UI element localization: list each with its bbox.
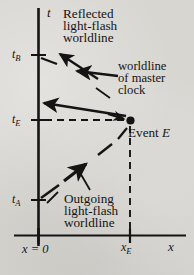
outgoing-flash-caption: Outgoing light-flash worldline — [64, 193, 118, 230]
tA-sub: A — [15, 198, 20, 208]
tA-tick-label: tA — [12, 193, 21, 208]
tB-sub: B — [15, 53, 20, 63]
event-e-label-symbol: E — [162, 125, 170, 140]
outgoing-flash-segment-4 — [118, 128, 127, 139]
tE-sub: E — [15, 118, 20, 128]
master-clock-callout-tick — [96, 88, 110, 98]
xE-sub: E — [126, 246, 131, 256]
outgoing-flash-segment-3 — [98, 144, 112, 155]
reflected-flash-caption-line-3: worldline — [63, 32, 117, 44]
time-axis-label: t — [47, 6, 51, 19]
origin-label: x = 0 — [22, 243, 48, 256]
reflected-flash-caption: Reflected light-flash worldline — [63, 8, 117, 45]
spacetime-diagram-figure: t x x = 0 xE tB tE tA Reflected light-fl… — [0, 0, 194, 275]
reflected-flash-upper-segment — [41, 58, 57, 64]
xE-tick-label: xE — [121, 241, 132, 256]
outgoing-callout-arrow — [79, 171, 90, 190]
event-e-dot — [126, 116, 134, 124]
master-clock-callout-arrow — [77, 71, 118, 76]
master-clock-caption: worldline of master clock — [118, 61, 166, 96]
reflected-flash-line — [44, 103, 126, 116]
outgoing-flash-segment-1 — [41, 185, 59, 198]
event-e-label-text: Event — [128, 125, 162, 140]
tB-tick-label: tB — [12, 48, 21, 63]
tE-tick-label: tE — [12, 113, 21, 128]
master-clock-caption-line-3: clock — [118, 85, 166, 97]
space-axis-label: x — [168, 240, 174, 253]
event-e-label: Event E — [128, 126, 170, 139]
reflected-callout-arrow — [60, 54, 98, 79]
outgoing-flash-caption-line-3: worldline — [64, 217, 118, 229]
